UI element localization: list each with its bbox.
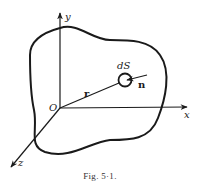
figure-caption: Fig. 5·1.: [83, 171, 116, 181]
closed-surface-outline: [30, 27, 166, 154]
position-vector-label: r: [84, 88, 90, 99]
position-vector-r: [60, 83, 119, 108]
surface-element-circle: [119, 74, 132, 87]
x-axis: [60, 107, 187, 108]
x-axis-label: x: [184, 109, 190, 120]
normal-vector-label: n: [138, 79, 146, 90]
figure-diagram: y x z O r dS n Fig. 5·1.: [0, 0, 199, 184]
z-axis-label: z: [17, 157, 24, 168]
surface-element-label: dS: [117, 60, 130, 71]
y-axis-label: y: [64, 11, 71, 22]
origin-label: O: [49, 102, 57, 113]
